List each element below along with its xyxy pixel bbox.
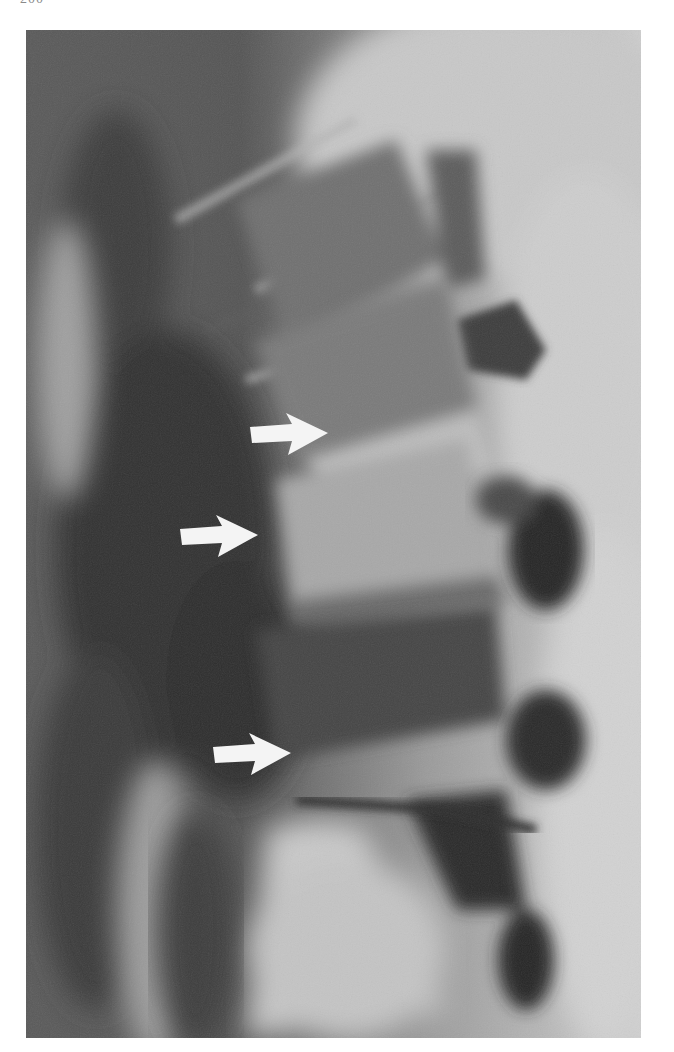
radiograph-image bbox=[26, 30, 641, 1038]
arrow-upper-icon bbox=[250, 413, 330, 457]
arrow-middle-icon bbox=[180, 515, 260, 559]
arrow-lower-icon bbox=[213, 733, 293, 777]
page-number: 200 bbox=[20, 0, 44, 7]
spine-radiograph bbox=[26, 30, 641, 1038]
